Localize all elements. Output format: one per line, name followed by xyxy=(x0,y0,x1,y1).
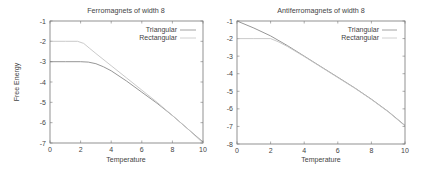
plot-frame xyxy=(50,21,203,143)
x-axis-label: Temperature xyxy=(301,156,340,164)
legend-label-rectangular: Rectangular xyxy=(341,34,379,42)
x-axis-label: Temperature xyxy=(106,156,145,164)
plot-lines xyxy=(237,21,405,126)
series-line-rectangular xyxy=(237,39,405,126)
x-tick-label: 0 xyxy=(235,147,239,154)
legend: Triangular Rectangular xyxy=(139,26,196,42)
y-tick-label: -6 xyxy=(40,119,46,126)
chart-title: Ferromagnets of width 8 xyxy=(87,6,165,15)
x-tick-label: 4 xyxy=(302,147,306,154)
legend: Triangular Rectangular xyxy=(341,26,397,42)
y-tick-label: -8 xyxy=(227,141,233,148)
figure: Ferromagnets of width 8 Free Energy Temp… xyxy=(0,0,421,171)
x-tick-label: 2 xyxy=(79,146,83,153)
x-tick-label: 8 xyxy=(369,147,373,154)
chart-title: Antiferromagnets of width 8 xyxy=(277,6,365,15)
y-tick-label: -7 xyxy=(227,123,233,130)
y-tick-label: -4 xyxy=(40,79,46,86)
y-tick-label: -5 xyxy=(40,99,46,106)
y-tick-label: -3 xyxy=(40,58,46,65)
legend-label-triangular: Triangular xyxy=(348,26,380,34)
y-tick-label: -4 xyxy=(227,70,233,77)
y-tick-label: -6 xyxy=(227,105,233,112)
x-tick-label: 4 xyxy=(109,146,113,153)
legend-label-rectangular: Rectangular xyxy=(139,34,177,42)
x-tick-label: 10 xyxy=(401,147,409,154)
legend-label-triangular: Triangular xyxy=(146,26,178,34)
series-line-rectangular xyxy=(50,41,203,143)
y-tick-label: -2 xyxy=(40,38,46,45)
y-tick-label: -5 xyxy=(227,88,233,95)
y-tick-label: -3 xyxy=(227,53,233,60)
series-line-triangular xyxy=(237,21,405,126)
plot-frame xyxy=(237,21,405,144)
ferromagnets-chart: Ferromagnets of width 8 Free Energy Temp… xyxy=(13,6,207,164)
x-tick-label: 6 xyxy=(336,147,340,154)
x-tick-label: 0 xyxy=(48,146,52,153)
y-axis-label: Free Energy xyxy=(13,62,21,101)
x-tick-label: 10 xyxy=(199,146,207,153)
x-tick-label: 8 xyxy=(170,146,174,153)
plot-lines xyxy=(50,41,203,143)
x-tick-label: 2 xyxy=(269,147,273,154)
axis-ticks: 0246810-1-2-3-4-5-6-7-8 xyxy=(227,18,409,155)
y-tick-label: -7 xyxy=(40,140,46,147)
antiferromagnets-chart: Antiferromagnets of width 8 Temperature … xyxy=(227,6,409,164)
y-tick-label: -2 xyxy=(227,35,233,42)
series-line-triangular xyxy=(50,62,203,142)
x-tick-label: 6 xyxy=(140,146,144,153)
y-tick-label: -1 xyxy=(227,18,233,25)
y-tick-label: -1 xyxy=(40,18,46,25)
